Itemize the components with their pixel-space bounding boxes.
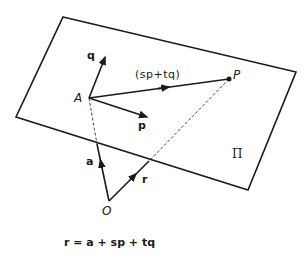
dashed-a-line (89, 98, 97, 144)
label-r: r (142, 174, 147, 185)
arrowhead-sp-tq (158, 88, 166, 89)
arrowhead-a (101, 163, 102, 168)
label-A: A (74, 92, 82, 104)
arrowhead-r (130, 176, 134, 180)
dashed-r-line (149, 79, 229, 161)
label-p: p (138, 120, 146, 131)
plane-pi (16, 17, 296, 190)
point-P (227, 77, 232, 82)
label-plane-pi: Π (232, 148, 242, 160)
label-O: O (102, 205, 111, 217)
label-a: a (86, 156, 93, 167)
label-q: q (87, 50, 95, 61)
vector-q (89, 60, 104, 98)
diagram-canvas (0, 0, 305, 254)
vector-a (97, 144, 109, 201)
label-sp-tq: (sp+tq) (135, 69, 180, 80)
equation: r = a + sp + tq (64, 237, 155, 248)
label-P: P (233, 69, 240, 81)
vector-p (89, 98, 144, 116)
